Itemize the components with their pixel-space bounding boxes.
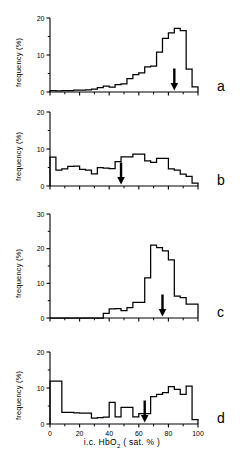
- x-axis-label-prefix: i.c. HbO: [84, 437, 117, 447]
- x-tick-label-100: 100: [192, 430, 204, 437]
- arrow-head-b: [117, 177, 125, 185]
- x-tick-label-80: 80: [165, 430, 173, 437]
- annotation-arrow-c-0: [159, 295, 167, 317]
- y-tick-label-b-20: 20: [37, 109, 45, 116]
- y-tick-label-a-20: 20: [37, 15, 45, 22]
- y-tick-label-d-0: 0: [41, 421, 45, 428]
- y-axis-label-b: frequency (%): [14, 132, 23, 181]
- x-tick-label-20: 20: [76, 430, 84, 437]
- x-axis-label-suffix: ( sat. % ): [121, 437, 161, 447]
- arrow-head-c: [159, 309, 167, 317]
- panel-d: 01020020406080100: [37, 349, 204, 437]
- x-tick-label-60: 60: [135, 430, 143, 437]
- histogram-outline-b: [50, 154, 198, 186]
- annotation-arrow-a-0: [171, 69, 179, 91]
- panel-letter-b: b: [217, 172, 225, 188]
- y-axis-label-c: frequency (%): [14, 249, 23, 298]
- y-tick-label-d-10: 10: [37, 385, 45, 392]
- panel-letter-c: c: [217, 304, 224, 320]
- x-axis-label: i.c. HbO2 ( sat. % ): [0, 437, 244, 449]
- y-tick-label-a-0: 0: [41, 89, 45, 96]
- annotation-arrow-b-0: [117, 163, 125, 185]
- y-tick-label-b-10: 10: [37, 146, 45, 153]
- panel-c: 0102030: [37, 211, 198, 322]
- panel-letter-a: a: [217, 78, 225, 94]
- arrow-head-a: [171, 83, 179, 91]
- panel-b: 01020: [37, 109, 198, 190]
- y-tick-label-c-20: 20: [37, 245, 45, 252]
- arrow-head-d: [141, 415, 149, 423]
- y-tick-label-c-30: 30: [37, 211, 45, 218]
- y-tick-label-d-20: 20: [37, 349, 45, 356]
- y-axis-label-a: frequency (%): [14, 38, 23, 87]
- annotation-arrow-d-0: [141, 401, 149, 423]
- x-tick-label-0: 0: [48, 430, 52, 437]
- panel-a: 01020: [37, 15, 198, 96]
- figure-histogram-panels: 0102001020010203001020020406080100freque…: [0, 0, 244, 464]
- y-tick-label-b-0: 0: [41, 183, 45, 190]
- y-tick-label-c-0: 0: [41, 315, 45, 322]
- panel-letter-d: d: [217, 410, 225, 426]
- histogram-figure-canvas: 0102001020010203001020020406080100: [0, 0, 244, 464]
- histogram-outline-d: [50, 381, 198, 424]
- y-tick-label-a-10: 10: [37, 52, 45, 59]
- histogram-outline-a: [50, 28, 198, 92]
- x-tick-label-40: 40: [105, 430, 113, 437]
- histogram-outline-c: [50, 245, 198, 318]
- y-tick-label-c-10: 10: [37, 280, 45, 287]
- y-axis-label-d: frequency (%): [14, 371, 23, 420]
